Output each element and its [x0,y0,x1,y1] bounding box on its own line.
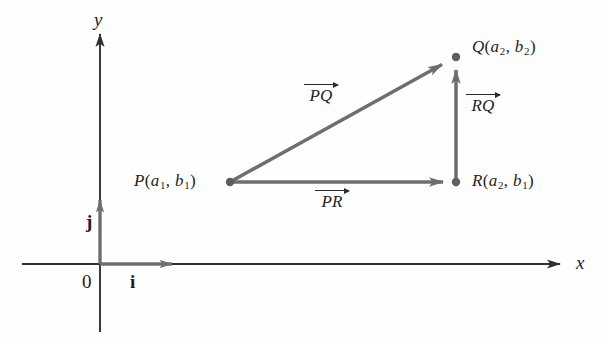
point-dot-q [452,53,460,61]
basis-vector-j-label: j [86,212,92,231]
point-label-q-coord2: b [515,37,524,56]
origin-label: 0 [82,272,92,291]
vector-label-pr: PR [315,190,349,212]
vector-label-pq: PQ [304,84,338,106]
point-label-p-name: P [134,171,145,190]
point-label-r-coord2: b [513,171,522,190]
point-label-q-comma: , [506,37,515,56]
point-label-q-coord1-sub: 2 [499,45,505,57]
point-label-p-coord2: b [175,171,184,190]
point-dot-p [226,178,234,186]
point-label-p: P(a1, b1) [134,172,196,189]
vector-arrow-overbar-pr [315,190,349,191]
point-label-r-coord2-sub: 1 [522,179,528,191]
vector-label-pr-text: PR [315,192,349,212]
y-axis-label: y [94,10,102,29]
point-dot-r [452,178,460,186]
vector-arrow-overbar-pq [304,84,338,85]
point-label-p-coord2-sub: 1 [184,179,190,191]
vector-label-rq-text: RQ [466,96,500,116]
point-label-p-comma: , [166,171,175,190]
vector-label-pq-text: PQ [304,86,338,106]
point-label-q-name: Q [472,37,485,56]
point-label-r-coord1-sub: 2 [497,179,503,191]
point-label-p-close-paren: ) [190,171,196,190]
point-label-q: Q(a2, b2) [472,38,536,55]
basis-vector-i-label: i [130,272,135,291]
point-label-r: R(a2, b1) [472,172,534,189]
vector-diagram-figure: x y 0 i j P(a1, b1) Q(a2, b2) R(a2, b1) … [0,0,605,338]
vector-label-rq: RQ [466,94,500,116]
point-label-q-coord2-sub: 2 [524,45,530,57]
point-label-p-coord1-sub: 1 [159,179,165,191]
x-axis-label: x [576,253,584,272]
point-label-r-close-paren: ) [528,171,534,190]
vector-arrow-overbar-rq [466,94,500,95]
point-label-r-comma: , [504,171,513,190]
point-label-r-name: R [472,171,483,190]
point-label-q-close-paren: ) [530,37,536,56]
